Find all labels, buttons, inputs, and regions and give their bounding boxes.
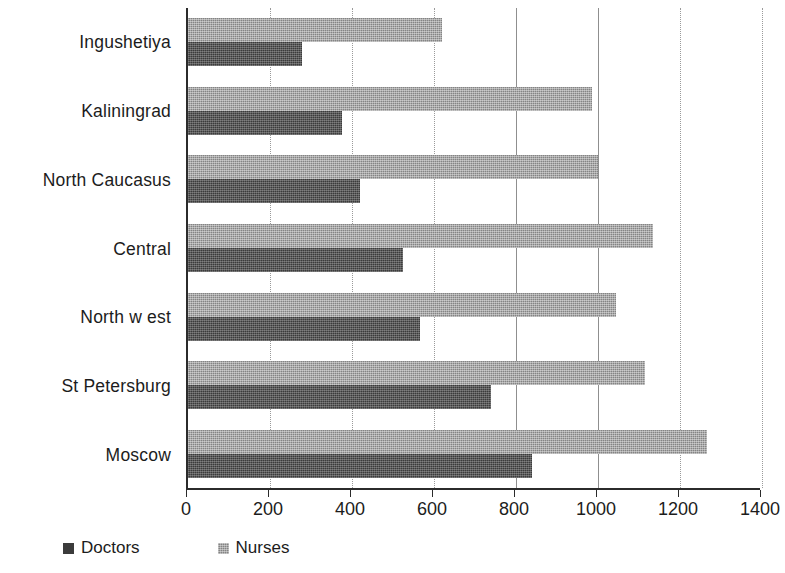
bar-doctors	[188, 385, 491, 409]
bar-nurses	[188, 430, 707, 454]
bar-doctors	[188, 179, 360, 203]
legend-swatch-icon	[63, 543, 74, 554]
axis-tick-label: 1200	[658, 499, 698, 520]
bar-doctors	[188, 111, 342, 135]
legend-entry-doctors: Doctors	[63, 538, 140, 558]
axis-tick	[514, 490, 515, 497]
axis-tick-label: 1000	[576, 499, 616, 520]
axis-tick-label: 0	[181, 499, 191, 520]
gridline	[762, 8, 764, 488]
bar-doctors	[188, 454, 532, 478]
legend-entry-nurses: Nurses	[218, 538, 290, 558]
axis-tick	[432, 490, 433, 497]
bar-nurses	[188, 18, 442, 42]
bar-group	[188, 214, 760, 283]
axis-tick-label: 200	[253, 499, 283, 520]
category-label: North Caucasus	[0, 146, 180, 215]
category-label: St Petersburg	[0, 352, 180, 421]
bar-doctors	[188, 42, 302, 66]
bar-group	[188, 351, 760, 420]
plot-area	[186, 8, 760, 490]
bar-doctors	[188, 248, 403, 272]
category-label: Ingushetiya	[0, 8, 180, 77]
category-label: Moscow	[0, 421, 180, 490]
category-axis: Ingushetiya Kaliningrad North Caucasus C…	[0, 8, 180, 490]
axis-tick	[760, 490, 761, 497]
bar-nurses	[188, 224, 653, 248]
bar-group	[188, 419, 760, 488]
category-label: Central	[0, 215, 180, 284]
bar-group	[188, 145, 760, 214]
axis-tick-label: 600	[417, 499, 447, 520]
bar-group	[188, 77, 760, 146]
bar-nurses	[188, 361, 645, 385]
axis-tick-label: 400	[335, 499, 365, 520]
bar-doctors	[188, 317, 420, 341]
bar-nurses	[188, 293, 616, 317]
bar-rows	[188, 8, 760, 488]
axis-tick	[186, 490, 187, 497]
bar-nurses	[188, 155, 598, 179]
bar-chart: Ingushetiya Kaliningrad North Caucasus C…	[0, 0, 785, 573]
axis-tick-label: 1400	[740, 499, 780, 520]
category-label: North w est	[0, 283, 180, 352]
axis-tick	[268, 490, 269, 497]
legend-label: Doctors	[81, 538, 140, 558]
axis-tick	[350, 490, 351, 497]
legend: Doctors Nurses	[63, 538, 289, 558]
axis-tick	[596, 490, 597, 497]
axis-tick	[678, 490, 679, 497]
axis-tick-label: 800	[499, 499, 529, 520]
bar-group	[188, 282, 760, 351]
legend-label: Nurses	[236, 538, 290, 558]
bar-nurses	[188, 87, 592, 111]
category-label: Kaliningrad	[0, 77, 180, 146]
legend-swatch-icon	[218, 543, 229, 554]
bar-group	[188, 8, 760, 77]
